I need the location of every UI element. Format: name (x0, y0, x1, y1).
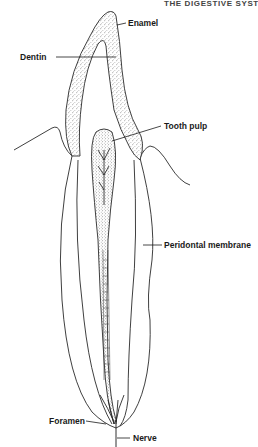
label-peridontal-membrane: Peridontal membrane (164, 240, 251, 250)
gum-line-left (14, 127, 72, 156)
label-foramen: Foramen (49, 416, 85, 426)
tooth-diagram: THE DIGESTIVE SYST Enamel Dentin Tooth p… (0, 0, 258, 447)
enamel-leader (117, 23, 126, 25)
label-tooth-pulp: Tooth pulp (164, 121, 207, 131)
label-nerve: Nerve (133, 433, 157, 443)
label-enamel: Enamel (128, 18, 158, 28)
gum-line-right (140, 146, 190, 185)
page-header: THE DIGESTIVE SYST (164, 0, 258, 8)
label-dentin: Dentin (20, 52, 46, 62)
